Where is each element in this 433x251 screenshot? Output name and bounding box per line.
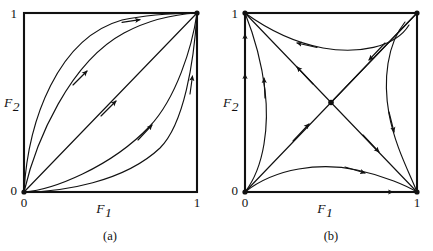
- fixed-point-origin-b: [242, 189, 247, 194]
- y-tick-0-b: 0: [232, 183, 239, 198]
- trajectory-top-sweep-b: [245, 13, 409, 50]
- trajectory-diagonal-a: [24, 13, 197, 192]
- trajectory-left-sweep-b: [245, 13, 266, 192]
- fixed-point-corner-10-b: [414, 189, 419, 194]
- flow-arrow-separatrix-upper-left-b: [297, 67, 313, 84]
- panel-b: 1 0 0 1 F2 F1 (b): [217, 0, 433, 251]
- y-axis-label-subscript-b: 2: [232, 99, 239, 114]
- x-axis-label-b: F1: [316, 201, 333, 220]
- x-axis-label-subscript-b: 1: [326, 205, 333, 220]
- flow-arrow-right-sweep-b: [389, 112, 394, 132]
- flow-arrow-bottom-sweep-b: [345, 167, 365, 173]
- x-tick-1-a: 1: [194, 195, 201, 210]
- y-tick-1-b: 1: [232, 6, 239, 21]
- fixed-point-saddle-b: [328, 100, 334, 106]
- x-tick-0-a: 0: [21, 195, 28, 210]
- y-axis-label-subscript-a: 2: [13, 99, 20, 114]
- fixed-point-corner-01-b: [242, 10, 247, 15]
- panel-caption-b: (b): [324, 229, 339, 243]
- panel-caption-a: (a): [103, 229, 117, 243]
- fixed-point-corner-11-b: [414, 10, 419, 15]
- x-tick-1-b: 1: [414, 195, 421, 210]
- flow-arrow-anti-diagonal-b: [369, 43, 385, 60]
- x-axis-label-subscript-a: 1: [105, 205, 112, 220]
- x-axis-label-letter-b: F: [316, 201, 326, 216]
- flow-arrow-lower-inner-a: [138, 125, 152, 140]
- trajectory-main-diagonal-b: [245, 103, 331, 193]
- y-tick-0-a: 0: [11, 183, 18, 198]
- y-axis-label-letter-a: F: [3, 95, 13, 110]
- fixed-point-origin-a: [21, 189, 26, 194]
- trajectory-bottom-sweep-b: [245, 167, 417, 192]
- y-tick-1-a: 1: [11, 6, 18, 21]
- panel-a: 1 0 0 1 F2 F1 (a): [0, 0, 216, 251]
- flow-arrow-left-sweep-b: [264, 78, 265, 98]
- flow-arrow-separatrix-lower-right-b: [363, 135, 379, 152]
- y-axis-label-letter-b: F: [222, 95, 232, 110]
- x-axis-label-letter-a: F: [95, 201, 105, 216]
- y-axis-label-b: F2: [222, 95, 239, 114]
- trajectory-right-sweep-b: [386, 22, 417, 192]
- flow-arrow-lower-outer-a: [190, 76, 193, 94]
- x-axis-label-a: F1: [95, 201, 112, 220]
- flow-arrow-main-diagonal-b: [293, 124, 309, 141]
- x-tick-0-b: 0: [242, 195, 249, 210]
- trajectory-anti-diagonal-b: [331, 13, 417, 103]
- figure-phase-portraits: 1 0 0 1 F2 F1 (a): [0, 0, 433, 251]
- fixed-point-corner-11-a: [194, 10, 199, 15]
- y-axis-label-a: F2: [3, 95, 20, 114]
- flow-arrow-diagonal-a: [101, 101, 116, 116]
- trajectory-separatrix-upper-left-b: [245, 13, 331, 103]
